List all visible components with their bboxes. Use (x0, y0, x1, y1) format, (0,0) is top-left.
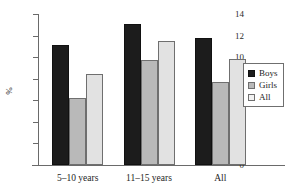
legend-item-boys[interactable]: Boys (248, 67, 278, 79)
plot-area: 0 2 4 6 8 10 12 14 5–10 years 11–15 year… (38, 14, 252, 165)
x-axis-group-label: All (214, 173, 226, 183)
bar-group (38, 14, 252, 165)
legend-item-girls[interactable]: Girls (248, 79, 278, 91)
x-axis-line (32, 165, 285, 166)
legend: Boys Girls All (243, 63, 284, 107)
y-axis-label: % (4, 76, 14, 106)
legend-swatch-boys-icon (248, 70, 255, 77)
x-axis-group-label: 5–10 years (57, 173, 98, 183)
legend-label-all: All (259, 92, 271, 102)
bar-boys[interactable] (195, 38, 212, 165)
legend-label-boys: Boys (259, 68, 278, 78)
legend-swatch-girls-icon (248, 82, 255, 89)
bar-chart: % 0 2 4 6 8 10 12 14 5–10 years (0, 0, 302, 191)
legend-label-girls: Girls (259, 80, 277, 90)
x-axis-group-label: 11–15 years (126, 173, 172, 183)
legend-swatch-all-icon (248, 94, 255, 101)
bar-girls[interactable] (212, 82, 229, 165)
legend-item-all[interactable]: All (248, 91, 278, 103)
y-tick-mark (33, 165, 38, 166)
